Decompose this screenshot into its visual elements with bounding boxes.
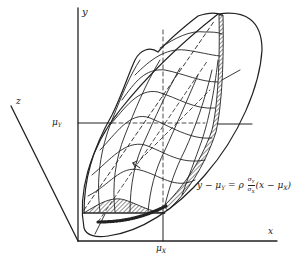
sigma-ratio: σY σX xyxy=(248,176,255,195)
surface-drawing xyxy=(0,0,308,259)
mu-y-label: μY xyxy=(52,118,62,128)
mu-x-label: μX xyxy=(156,244,166,254)
x-axis-label: x xyxy=(268,227,273,236)
regression-equation: y − μY = ρ σY σX (x − μX) xyxy=(197,176,291,195)
regression-dashed-1 xyxy=(84,20,215,210)
y-axis-label: y xyxy=(82,7,88,17)
bivariate-normal-figure: y z x μY μX y − μY = ρ σY σX (x − μX) xyxy=(0,0,308,259)
z-axis xyxy=(11,106,78,241)
z-axis-label: z xyxy=(16,97,21,106)
base-section xyxy=(84,199,165,213)
